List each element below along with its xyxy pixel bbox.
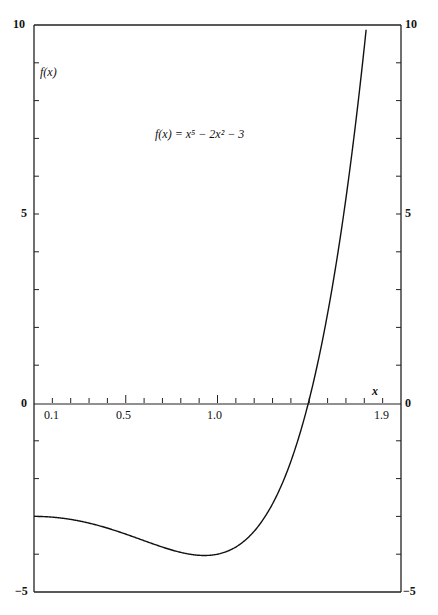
x-tick-label-0-5: 0.5 <box>116 408 131 423</box>
y-tick-label-right-5: 5 <box>405 206 411 221</box>
plot-frame <box>34 25 401 592</box>
plot-area <box>0 0 438 615</box>
y-axis-title: f(x) <box>40 65 57 80</box>
function-curve <box>34 30 366 556</box>
x-tick-label-1-0: 1.0 <box>207 408 222 423</box>
x-tick-label-1-9: 1.9 <box>374 408 389 423</box>
y-tick-label-right-10: 10 <box>405 17 417 32</box>
x-axis-title: x <box>372 384 378 399</box>
y-tick-label-left-m5: −5 <box>15 584 28 599</box>
y-tick-label-left-0: 0 <box>21 396 27 411</box>
y-tick-label-right-m5: −5 <box>403 584 416 599</box>
y-tick-label-left-5: 5 <box>21 206 27 221</box>
x-tick-label-0-1: 0.1 <box>44 408 59 423</box>
equation-annotation: f(x) = x⁵ − 2x² − 3 <box>155 127 244 142</box>
y-tick-label-left-10: 10 <box>13 17 25 32</box>
y-tick-label-right-0: 0 <box>405 396 411 411</box>
